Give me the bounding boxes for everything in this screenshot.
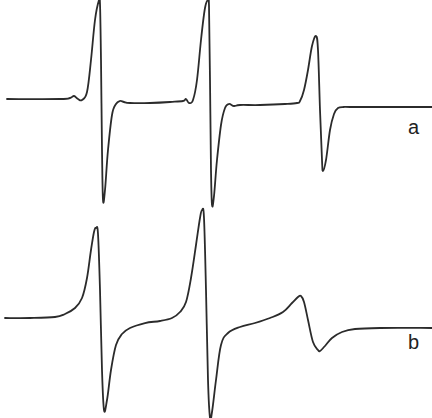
spectrum-b-label: b: [408, 332, 419, 352]
spectrum-a-trace: [7, 0, 432, 207]
spectrum-b-trace: [5, 209, 432, 418]
spectra-figure: a b: [0, 0, 432, 418]
spectra-plot: [0, 0, 432, 418]
spectrum-a-label: a: [408, 117, 419, 137]
